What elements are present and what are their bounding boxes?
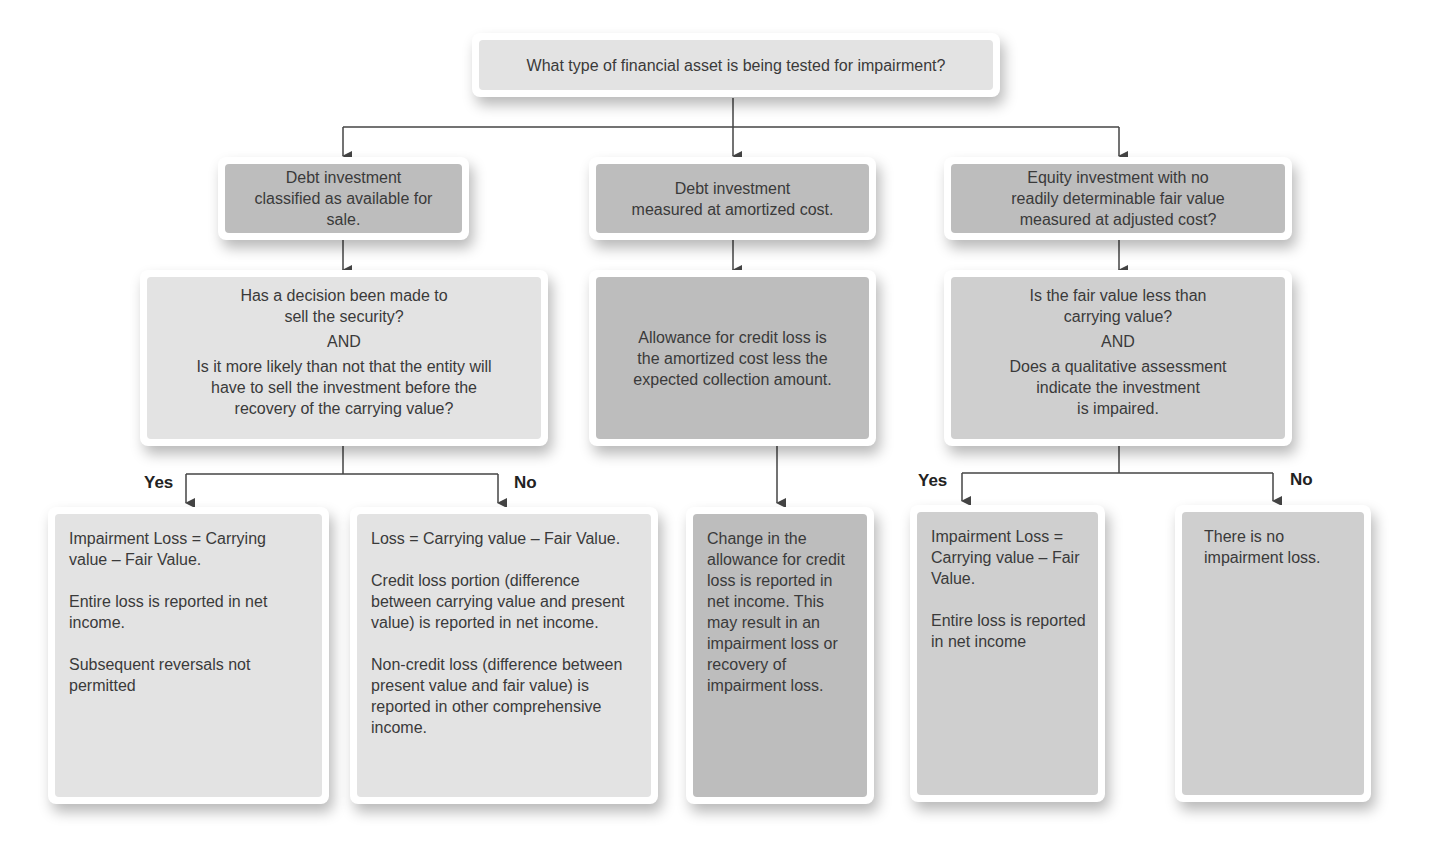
and-connector-text: AND <box>1101 331 1135 352</box>
edge-label-no: No <box>514 473 537 493</box>
category-text: measured at adjusted cost? <box>1020 209 1217 230</box>
category-node-amortized-cost: Debt investment measured at amortized co… <box>589 157 876 240</box>
outcome-text: Credit loss portion (difference between … <box>371 570 637 633</box>
question-text: carrying value? <box>1064 306 1173 327</box>
question-text: Is it more likely than not that the enti… <box>196 356 491 377</box>
outcome-node-equity-yes: Impairment Loss = Carrying value – Fair … <box>910 505 1105 802</box>
outcome-text: Loss = Carrying value – Fair Value. <box>371 528 620 549</box>
category-text: Debt investment <box>675 178 791 199</box>
category-node-equity-adjusted-cost: Equity investment with no readily determ… <box>944 157 1292 240</box>
outcome-text: Change in the allowance for credit loss … <box>707 528 857 696</box>
root-question-box: What type of financial asset is being te… <box>479 40 993 90</box>
category-text: measured at amortized cost. <box>632 199 834 220</box>
category-text: Debt investment <box>286 167 402 188</box>
outcome-text: Non-credit loss (difference between pres… <box>371 654 637 738</box>
outcome-node-afs-yes: Impairment Loss = Carrying value – Fair … <box>48 507 329 804</box>
category-text: Equity investment with no <box>1027 167 1208 188</box>
allowance-node: Allowance for credit loss is the amortiz… <box>589 270 876 446</box>
question-text: recovery of the carrying value? <box>235 398 454 419</box>
allowance-text: expected collection amount. <box>633 369 831 390</box>
category-node-available-for-sale: Debt investment classified as available … <box>218 157 469 240</box>
edge-label-yes: Yes <box>918 471 947 491</box>
question-node-sell-decision: Has a decision been made to sell the sec… <box>140 270 548 446</box>
outcome-text: Impairment Loss = Carrying value – Fair … <box>69 528 308 570</box>
edge-label-no: No <box>1290 470 1313 490</box>
outcome-text: There is no impairment loss. <box>1204 526 1354 568</box>
question-text: Has a decision been made to <box>240 285 447 306</box>
and-connector-text: AND <box>327 331 361 352</box>
category-text: sale. <box>327 209 361 230</box>
question-text: have to sell the investment before the <box>211 377 477 398</box>
question-text: Is the fair value less than <box>1030 285 1207 306</box>
edge-label-yes: Yes <box>144 473 173 493</box>
category-text: readily determinable fair value <box>1011 188 1224 209</box>
outcome-text: Entire loss is reported in net income. <box>69 591 308 633</box>
question-text: Does a qualitative assessment <box>1010 356 1227 377</box>
root-question-text: What type of financial asset is being te… <box>527 55 946 76</box>
outcome-node-amortized-cost: Change in the allowance for credit loss … <box>686 507 874 804</box>
root-question-node: What type of financial asset is being te… <box>472 33 1000 97</box>
outcome-node-equity-no: There is no impairment loss. <box>1175 505 1371 802</box>
question-text: indicate the investment <box>1036 377 1200 398</box>
outcome-node-afs-no: Loss = Carrying value – Fair Value. Cred… <box>350 507 658 804</box>
outcome-text: Impairment Loss = Carrying value – Fair … <box>931 526 1088 589</box>
category-text: classified as available for <box>255 188 433 209</box>
question-node-fair-value: Is the fair value less than carrying val… <box>944 270 1292 446</box>
allowance-text: the amortized cost less the <box>637 348 827 369</box>
question-text: sell the security? <box>284 306 403 327</box>
question-text: is impaired. <box>1077 398 1159 419</box>
outcome-text: Subsequent reversals not permitted <box>69 654 308 696</box>
allowance-text: Allowance for credit loss is <box>638 327 827 348</box>
outcome-text: Entire loss is reported in net income <box>931 610 1088 652</box>
